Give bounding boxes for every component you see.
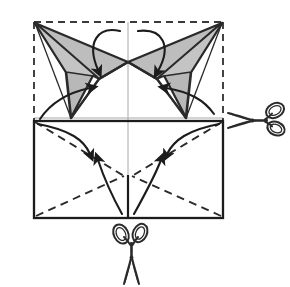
canvas-background bbox=[0, 0, 290, 287]
scissors-bottom-pivot bbox=[130, 256, 134, 260]
scissors-right-pivot bbox=[251, 119, 255, 123]
origami-diagram-container: Square sheet shown with dashed original … bbox=[0, 0, 290, 287]
origami-diagram-svg bbox=[0, 0, 290, 287]
